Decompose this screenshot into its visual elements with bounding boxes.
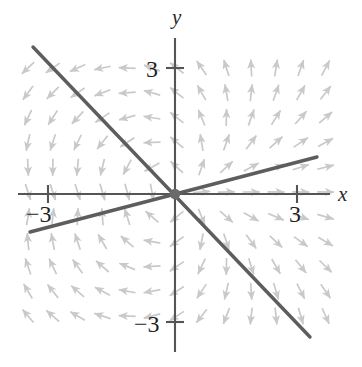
field-arrow <box>197 284 206 298</box>
field-arrow <box>23 86 33 100</box>
field-arrow <box>298 308 303 324</box>
field-arrow <box>144 240 161 243</box>
field-arrow <box>24 110 31 125</box>
field-arrow <box>251 283 252 300</box>
field-arrow <box>270 236 282 248</box>
field-arrow <box>144 116 161 119</box>
field-arrow <box>298 60 304 76</box>
y-axis-label: y <box>170 5 182 29</box>
origin-point <box>170 189 180 199</box>
field-arrow <box>70 64 85 71</box>
field-arrow <box>295 260 306 273</box>
field-arrow <box>50 134 55 150</box>
field-arrow <box>170 137 183 148</box>
field-arrow <box>251 60 252 77</box>
field-arrow <box>320 86 330 100</box>
field-arrow <box>170 112 183 123</box>
field-arrow <box>248 110 254 126</box>
field-arrow <box>98 234 107 249</box>
field-arrow <box>294 138 308 147</box>
field-arrow <box>273 85 279 101</box>
field-arrow <box>144 266 161 267</box>
field-arrow <box>246 136 256 150</box>
field-arrow <box>244 163 259 171</box>
field-arrow <box>102 208 103 225</box>
tick-label-y-3: 3 <box>146 56 158 82</box>
field-arrow <box>200 134 203 151</box>
field-arrow <box>318 237 333 246</box>
field-arrow <box>170 211 183 222</box>
field-arrow <box>95 287 110 295</box>
field-arrow <box>268 213 284 220</box>
field-arrow <box>197 85 205 100</box>
field-arrow <box>170 88 183 99</box>
field-arrow <box>119 290 136 293</box>
field-arrow <box>318 138 333 146</box>
field-arrow <box>250 308 252 325</box>
field-arrow <box>297 284 305 299</box>
field-arrow <box>119 92 136 93</box>
tick-label-x-minus3: −3 <box>26 201 52 227</box>
field-arrow <box>48 285 59 298</box>
tick-label-x-3: 3 <box>289 201 301 227</box>
field-arrow <box>72 111 83 124</box>
field-arrow <box>94 90 110 96</box>
field-arrow <box>171 161 184 173</box>
field-arrow <box>198 110 204 126</box>
field-arrow <box>274 283 279 299</box>
field-arrow <box>150 184 153 201</box>
field-arrow <box>47 87 59 99</box>
field-arrow <box>244 213 259 221</box>
field-arrow <box>225 283 229 300</box>
field-arrow <box>119 263 135 269</box>
field-arrow <box>317 214 333 219</box>
field-arrow <box>197 61 207 75</box>
field-arrow <box>75 234 80 250</box>
field-arrow <box>74 135 81 150</box>
field-arrow <box>271 110 280 124</box>
tick-label-y-minus3: −3 <box>134 311 160 337</box>
field-arrow <box>270 137 283 148</box>
field-arrow <box>295 111 306 124</box>
field-arrow <box>220 161 233 172</box>
plot-canvas: x y 3−33−3 <box>0 0 362 367</box>
field-arrow <box>51 233 54 250</box>
field-arrow <box>322 60 330 75</box>
field-arrow <box>250 84 252 101</box>
field-arrow <box>170 262 184 272</box>
field-arrow <box>246 235 256 249</box>
field-arrow <box>25 258 30 274</box>
field-arrow <box>200 233 203 250</box>
field-arrow <box>170 237 184 247</box>
field-arrow <box>144 290 161 293</box>
field-arrow <box>317 165 334 169</box>
field-arrow <box>322 308 329 323</box>
field-arrow <box>224 60 229 76</box>
field-arrow <box>26 134 30 151</box>
field-arrow <box>25 184 30 200</box>
field-arrow <box>49 259 56 274</box>
field-arrow <box>71 286 84 297</box>
field-arrow <box>220 211 233 222</box>
field-arrow <box>223 308 229 324</box>
field-arrow <box>319 112 332 123</box>
field-arrow <box>70 312 85 321</box>
field-arrow <box>28 159 29 176</box>
field-arrow <box>24 284 33 299</box>
field-arrow <box>119 115 135 120</box>
field-arrow <box>50 184 55 200</box>
field-arrow <box>198 259 205 274</box>
direction-field-figure: x y 3−33−3 <box>0 0 362 367</box>
field-arrow <box>293 165 309 170</box>
field-arrow <box>121 236 134 247</box>
field-arrow <box>144 90 160 95</box>
field-arrow <box>196 309 207 322</box>
field-arrow <box>46 310 59 321</box>
field-arrow <box>275 308 277 325</box>
field-arrow <box>100 184 105 200</box>
field-arrow <box>125 209 130 225</box>
field-arrow <box>75 184 80 200</box>
field-arrow <box>144 142 161 143</box>
field-arrow <box>94 313 110 318</box>
field-arrow <box>77 159 79 176</box>
